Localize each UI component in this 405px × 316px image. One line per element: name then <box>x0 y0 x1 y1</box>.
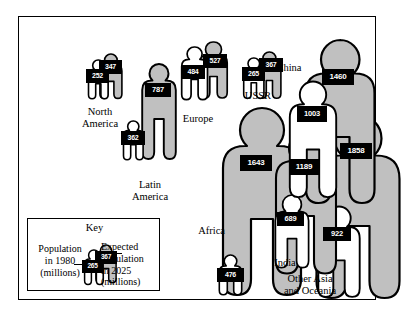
key-leader-line-left <box>74 264 84 265</box>
region-label-africa-line1: Africa <box>198 225 225 236</box>
key-label-1980-line1: Population <box>29 243 91 255</box>
region-label-other-asia: Other Asia and Oceania <box>272 273 348 297</box>
key-leader-line-right <box>112 253 122 254</box>
region-label-india-line1: India <box>274 257 296 268</box>
key-label-2025: Expected population in 2025 (millions) <box>101 241 160 288</box>
value-badge-china-2025: 1460 <box>322 69 354 85</box>
value-badge-africa-2025: 1643 <box>240 155 272 171</box>
region-label-africa: Africa <box>181 225 225 237</box>
region-label-latin-america-line1: Latin <box>119 179 181 191</box>
region-label-ussr: USSR <box>232 90 284 102</box>
value-badge-africa-1980: 476 <box>217 268 244 282</box>
value-badge-latin-america-2025: 787 <box>145 83 171 97</box>
value-badge-latin-america-1980: 362 <box>121 131 145 145</box>
region-label-north-america-line1: North <box>72 106 128 118</box>
key-label-2025-line3: in 2025 <box>101 265 160 277</box>
region-label-india: India <box>259 257 311 269</box>
value-badge-europe-2025: 527 <box>203 54 227 68</box>
value-badge-china-1980: 1003 <box>297 106 327 122</box>
region-label-europe: Europe <box>171 113 225 125</box>
key-label-2025-line4: (millions) <box>101 276 160 288</box>
value-badge-other-asia-2025: 1858 <box>340 143 372 159</box>
value-badge-india-1980: 689 <box>277 212 304 226</box>
value-badge-india-2025: 1189 <box>289 159 319 175</box>
region-label-other-asia-line1: Other Asia <box>272 273 348 285</box>
region-label-latin-america: Latin America <box>119 179 181 203</box>
region-label-other-asia-line2: and Oceania <box>272 285 348 297</box>
value-badge-other-asia-1980: 922 <box>323 227 351 241</box>
region-label-north-america-line2: America <box>72 118 128 130</box>
value-badge-north-america-1980: 252 <box>86 69 109 83</box>
person-china-1980 <box>285 79 341 211</box>
region-label-north-america: North America <box>72 106 128 130</box>
region-label-europe-line1: Europe <box>183 113 213 124</box>
key-title: Key <box>28 222 161 233</box>
value-badge-europe-1980: 484 <box>181 65 205 79</box>
region-label-latin-america-line2: America <box>119 191 181 203</box>
region-label-ussr-line1: USSR <box>245 90 271 101</box>
value-badge-ussr-1980: 265 <box>242 67 265 81</box>
key-value-badge-1980: 265 <box>82 260 103 273</box>
key-legend-box: Key 367 265 Population in 1980 (millions… <box>27 218 160 291</box>
